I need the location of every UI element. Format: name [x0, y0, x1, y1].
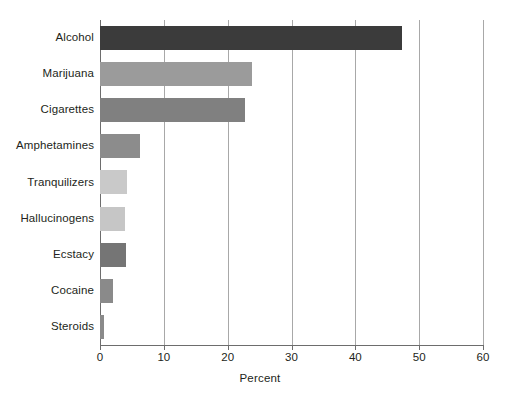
- category-label: Cocaine: [0, 284, 94, 297]
- x-tick-label: 50: [413, 350, 426, 364]
- category-label: Steroids: [0, 320, 94, 333]
- bars-group: [100, 20, 483, 345]
- x-axis-title: Percent: [0, 372, 520, 384]
- bar: [100, 243, 126, 267]
- bar-row: [100, 20, 483, 56]
- bar-row: [100, 237, 483, 273]
- category-label: Hallucinogens: [0, 212, 94, 225]
- bar-row: [100, 92, 483, 128]
- bar-row: [100, 201, 483, 237]
- category-label: Alcohol: [0, 31, 94, 44]
- bar: [100, 26, 402, 50]
- x-tick-label: 30: [285, 350, 298, 364]
- bar: [100, 315, 104, 339]
- category-label: Amphetamines: [0, 139, 94, 152]
- bar-row: [100, 164, 483, 200]
- gridline-60: [483, 20, 484, 345]
- bar: [100, 98, 245, 122]
- x-tick-label: 40: [349, 350, 362, 364]
- bar: [100, 170, 127, 194]
- bar-row: [100, 56, 483, 92]
- category-labels-group: AlcoholMarijuanaCigarettesAmphetaminesTr…: [0, 20, 94, 345]
- bar-row: [100, 309, 483, 345]
- category-label: Cigarettes: [0, 103, 94, 116]
- bar-row: [100, 128, 483, 164]
- bar: [100, 62, 252, 86]
- category-label: Tranquilizers: [0, 176, 94, 189]
- bar-chart: AlcoholMarijuanaCigarettesAmphetaminesTr…: [0, 0, 520, 398]
- bar: [100, 134, 140, 158]
- category-label: Marijuana: [0, 67, 94, 80]
- x-tick-label: 20: [221, 350, 234, 364]
- bar-row: [100, 273, 483, 309]
- x-tick-label: 10: [157, 350, 170, 364]
- category-label: Ecstacy: [0, 248, 94, 261]
- x-tick-label: 0: [97, 350, 103, 364]
- x-tick-label: 60: [477, 350, 490, 364]
- bar: [100, 279, 113, 303]
- bar: [100, 207, 125, 231]
